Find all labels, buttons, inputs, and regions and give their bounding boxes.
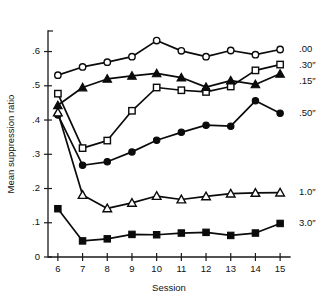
y-axis-ticks: 0.1.2.3.4.5.6 (32, 31, 53, 262)
marker-open-square (55, 90, 61, 96)
series-label: 3.0″ (299, 217, 316, 228)
x-tick-label: 15 (275, 263, 286, 274)
x-tick-label: 7 (80, 263, 85, 274)
series-polyline (58, 41, 280, 76)
series-label: .30″ (299, 59, 316, 70)
series-polyline (58, 113, 280, 209)
marker-open-triangle (54, 108, 63, 116)
marker-open-circle (252, 51, 258, 57)
marker-open-circle (153, 37, 159, 43)
marker-filled-square (104, 236, 110, 242)
marker-filled-square (129, 231, 135, 237)
marker-open-square (79, 145, 85, 151)
y-tick-label: .2 (32, 182, 40, 193)
series-label: 1.0″ (299, 186, 316, 197)
marker-filled-square (252, 230, 258, 236)
marker-open-circle (178, 48, 184, 54)
marker-open-square (178, 87, 184, 93)
series-6 (55, 206, 284, 245)
x-tick-label: 8 (105, 263, 110, 274)
x-tick-label: 6 (55, 263, 60, 274)
marker-open-square (129, 108, 135, 114)
y-tick-label: .1 (32, 216, 40, 227)
x-tick-label: 13 (225, 263, 236, 274)
x-axis-title: Session (152, 282, 186, 293)
marker-filled-circle (178, 129, 184, 135)
y-tick-label: .6 (32, 45, 40, 56)
marker-filled-square (153, 232, 159, 238)
marker-open-circle (79, 64, 85, 70)
marker-filled-square (228, 232, 234, 238)
marker-filled-circle (79, 162, 85, 168)
series-5 (54, 108, 285, 212)
chart-figure: 0.1.2.3.4.5.6 6789101112131415 .00.30″.1… (0, 0, 325, 299)
x-tick-label: 10 (151, 263, 162, 274)
marker-filled-square (79, 238, 85, 244)
data-series-group (54, 37, 285, 244)
marker-open-square (104, 137, 110, 143)
marker-filled-circle (277, 110, 283, 116)
series-polyline (58, 209, 280, 241)
marker-filled-triangle (226, 76, 235, 84)
marker-open-circle (104, 59, 110, 65)
marker-filled-circle (129, 149, 135, 155)
marker-open-circle (55, 72, 61, 78)
marker-filled-circle (153, 137, 159, 143)
marker-filled-circle (252, 98, 258, 104)
marker-filled-square (178, 230, 184, 236)
marker-filled-square (277, 220, 283, 226)
marker-filled-circle (203, 122, 209, 128)
y-tick-label: 0 (35, 251, 40, 262)
marker-filled-circle (228, 123, 234, 129)
marker-open-circle (277, 46, 283, 52)
series-label: .50″ (299, 107, 316, 118)
y-axis-title: Mean suppression ratio (5, 95, 16, 194)
x-axis-ticks: 6789101112131415 (55, 253, 285, 274)
marker-open-square (153, 84, 159, 90)
marker-open-circle (228, 47, 234, 53)
y-tick-label: .5 (32, 79, 40, 90)
line-chart: 0.1.2.3.4.5.6 6789101112131415 .00.30″.1… (0, 0, 325, 299)
marker-open-square (277, 61, 283, 67)
marker-open-triangle (152, 192, 161, 200)
marker-filled-square (55, 206, 61, 212)
marker-filled-triangle (276, 70, 285, 78)
y-tick-label: .3 (32, 148, 40, 159)
marker-open-square (252, 67, 258, 73)
marker-filled-square (203, 229, 209, 235)
series-polyline (58, 101, 280, 165)
x-tick-label: 12 (201, 263, 212, 274)
x-tick-label: 9 (129, 263, 134, 274)
y-tick-label: .4 (32, 114, 40, 125)
series-label: .15″ (299, 75, 316, 86)
marker-open-circle (203, 53, 209, 59)
series-label: .00 (299, 43, 312, 54)
marker-filled-circle (104, 159, 110, 165)
series-labels-group: .00.30″.15″.50″1.0″3.0″ (299, 43, 316, 228)
series-1 (55, 37, 284, 78)
marker-open-circle (129, 53, 135, 59)
x-tick-label: 14 (250, 263, 261, 274)
marker-open-triangle (78, 191, 87, 199)
series-4 (55, 98, 284, 169)
x-tick-label: 11 (176, 263, 186, 274)
